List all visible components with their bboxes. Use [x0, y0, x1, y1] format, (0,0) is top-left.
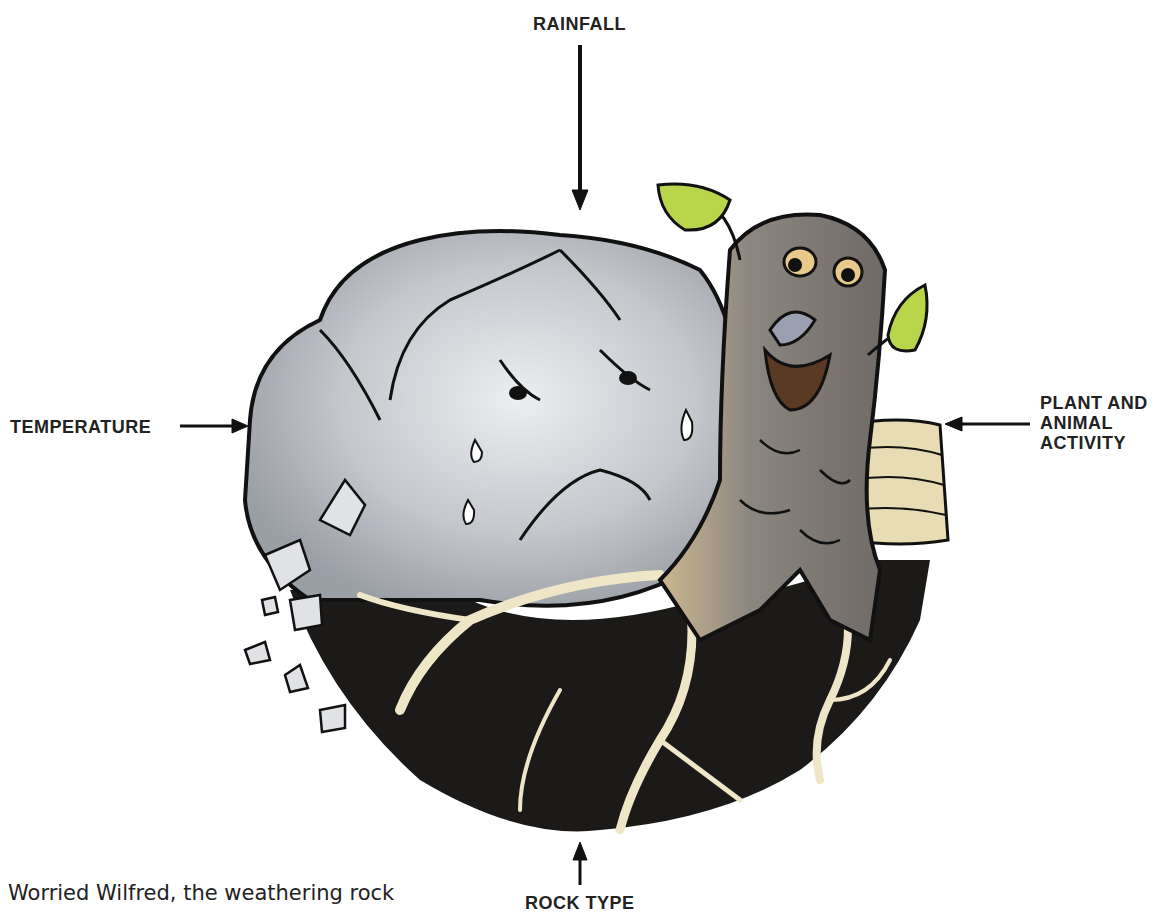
rock-eye-right	[619, 371, 637, 385]
label-line: ACTIVITY	[1040, 433, 1148, 453]
label-rainfall: RAINFALL	[533, 14, 626, 34]
label-plant-animal-activity: PLANT AND ANIMAL ACTIVITY	[1040, 393, 1148, 453]
label-temperature: TEMPERATURE	[10, 417, 151, 437]
label-rock-type: ROCK TYPE	[525, 893, 635, 913]
arrow-plant-animal	[945, 417, 1030, 431]
label-line: PLANT AND	[1040, 393, 1148, 413]
arrow-temperature	[180, 419, 248, 433]
rock-eye-left	[509, 386, 527, 400]
arrow-rainfall	[572, 45, 588, 210]
rock	[245, 231, 740, 606]
figure-caption: Worried Wilfred, the weathering rock	[8, 881, 394, 905]
label-line: ANIMAL	[1040, 413, 1148, 433]
arrow-rock-type	[573, 842, 587, 885]
leaf	[658, 184, 740, 260]
weathering-illustration	[0, 0, 1168, 913]
